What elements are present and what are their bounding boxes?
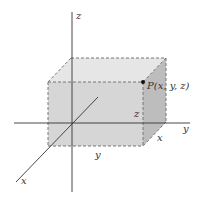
- dimension-y-label: y: [94, 149, 101, 160]
- y-axis-label: y: [182, 123, 189, 134]
- dimension-z-label: z: [133, 108, 140, 119]
- x-axis-label: x: [21, 175, 27, 186]
- coordinate-box-diagram: z y x P(x, y, z) z x y: [0, 0, 199, 200]
- point-p: [141, 80, 145, 84]
- front-face: [48, 82, 143, 146]
- point-p-label: P(x, y, z): [146, 80, 190, 91]
- dimension-x-label: x: [157, 132, 163, 143]
- z-axis-label: z: [75, 10, 82, 21]
